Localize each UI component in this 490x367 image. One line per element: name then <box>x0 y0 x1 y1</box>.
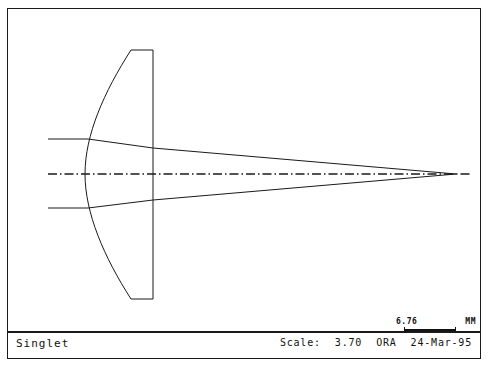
footer-bar: Singlet Scale: 3.70 ORA 24-Mar-95 <box>8 333 480 358</box>
upper-ray-outgoing <box>153 148 456 174</box>
footer-metadata: Scale: 3.70 ORA 24-Mar-95 <box>280 337 472 348</box>
upper-ray <box>48 139 456 174</box>
diagram-frame: 6.76 MM Singlet Scale: 3.70 ORA 24-Mar-9… <box>7 8 481 359</box>
ray-diagram-canvas <box>8 9 480 331</box>
upper-ray-internal <box>88 139 153 148</box>
system-title-label: Singlet <box>16 337 69 350</box>
ray-trace-drawing <box>8 9 480 331</box>
scale-bar-units: MM <box>465 317 476 326</box>
date-label: 24-Mar-95 <box>411 337 472 348</box>
lower-ray-internal <box>88 200 153 208</box>
scale-bar-labels: 6.76 MM <box>396 317 476 326</box>
scale-bar-value: 6.76 <box>396 317 417 326</box>
scale-value: 3.70 <box>335 337 362 348</box>
lower-ray <box>48 174 456 208</box>
scale-label: Scale: <box>280 337 321 348</box>
lower-ray-outgoing <box>153 174 456 200</box>
lens-front-surface <box>85 50 131 299</box>
optical-layout-window: 6.76 MM Singlet Scale: 3.70 ORA 24-Mar-9… <box>0 0 490 367</box>
vendor-label: ORA <box>376 337 396 348</box>
